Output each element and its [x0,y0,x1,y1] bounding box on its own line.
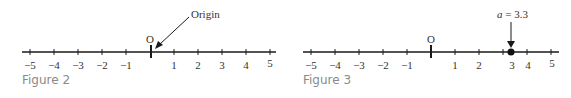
tick-label: −2 [96,59,108,71]
tick-label: 3 [509,59,515,71]
tick-label: −1 [401,59,413,71]
tick-label: −2 [377,59,389,71]
figure-caption: Figure 2 [22,73,70,87]
tick-label: −1 [120,59,132,71]
tick-label: −3 [353,59,365,71]
origin-annotation: Origin [191,8,220,20]
tick-label: −5 [305,59,317,71]
tick-label: 5 [549,57,555,69]
tick-label: 5 [267,57,273,69]
figure-caption: Figure 3 [303,73,351,87]
origin-label: O [427,33,435,45]
tick-label: −3 [72,59,84,71]
arrow-line [159,17,189,45]
tick-label: 4 [243,59,249,71]
tick-label: 1 [171,59,177,71]
tick-label: 3 [219,59,225,71]
svg-text:a = 3.3: a = 3.3 [497,8,528,20]
figure-2-panel: −5 −4 −3 −2 −1 1 2 3 4 5 O Origin Figure… [0,0,285,98]
tick-label: 4 [525,59,531,71]
tick-label: 1 [452,59,458,71]
tick-label: −5 [24,59,36,71]
value-label: = 3.3 [503,8,529,20]
arrow-head-icon [507,41,515,48]
figure-3-panel: −5 −4 −3 −2 −1 1 2 3 4 5 O a = 3.3 Figur… [285,0,571,98]
tick-label: 2 [476,59,482,71]
point-a [508,49,515,56]
origin-label: O [146,33,154,45]
tick-label: 2 [195,59,201,71]
tick-label: −4 [48,59,60,71]
tick-label: −4 [329,59,341,71]
